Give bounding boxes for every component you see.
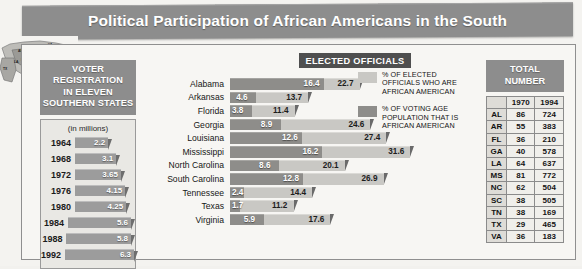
table-col-state [487, 97, 507, 109]
vr-year-label: 1992 [41, 250, 65, 260]
chart-row-label: Mississippi [160, 147, 230, 157]
bar-label-voting-age-population: 13.7 [286, 93, 302, 102]
legend-swatch-dark [358, 106, 377, 117]
table-col-1970: 1970 [506, 97, 535, 109]
vr-bar-container: 5.8 [66, 233, 135, 246]
chart-row-label: Louisiana [160, 133, 230, 143]
table-cell-y1994: 210 [535, 133, 564, 145]
chart-row: Texas1.711.2 [160, 199, 360, 213]
table-head: 1970 1994 [487, 97, 564, 109]
bar-label-elected-officials: 3.8 [232, 106, 243, 115]
voter-registration-rows: 19642.219683.119723.6519764.1519804.2519… [41, 136, 135, 263]
table-body: AL86724AR55383FL36210GA40578LA64637MS817… [487, 109, 564, 243]
table-cell-y1970: 55 [506, 121, 535, 133]
vr-year-label: 1976 [41, 186, 75, 196]
chart-row: Tennessee2.414.4 [160, 186, 360, 200]
bar-label-elected-officials: 4.6 [236, 93, 247, 102]
chart-row: Arkansas4.613.7 [160, 91, 360, 105]
vr-value-label: 4.25 [108, 202, 127, 211]
bar-label-elected-officials: 8.9 [261, 120, 272, 129]
vr-value-label: 2.2 [94, 138, 108, 147]
table-cell-y1994: 504 [535, 182, 564, 194]
vr-row: 19764.15 [41, 184, 135, 199]
table-cell-y1970: 62 [506, 182, 535, 194]
voter-registration-chart: (in millions) 19642.219683.119723.651976… [40, 119, 136, 269]
vr-year-label: 1988 [41, 234, 66, 244]
legend-swatch-light [358, 72, 377, 83]
table-row: GA40578 [487, 145, 564, 157]
chart-row-label: Georgia [160, 120, 230, 130]
table-cell-y1970: 38 [506, 194, 535, 206]
bar-label-voting-age-population: 17.6 [308, 215, 324, 224]
bar-label-elected-officials: 5.9 [244, 215, 255, 224]
table-cell-y1970: 36 [506, 231, 535, 243]
total-number-table: 1970 1994 AL86724AR55383FL36210GA40578LA… [486, 96, 564, 243]
bar-label-elected-officials: 12.8 [283, 174, 299, 183]
chart-row-bars: 12.627.4 [230, 132, 360, 144]
table-cell-state: NC [487, 182, 507, 194]
vr-bar: 2.2 [75, 137, 108, 148]
table-cell-state: FL [487, 133, 507, 145]
table-cell-y1970: 86 [506, 109, 535, 121]
page-title-banner: Political Participation of African Ameri… [22, 2, 573, 39]
chart-row-bars: 16.422.7 [230, 78, 360, 90]
tn-heading-line-2: NUMBER [486, 76, 564, 88]
chart-row-bars: 4.613.7 [230, 92, 360, 104]
vr-value-label: 3.65 [102, 170, 121, 179]
vr-row: 19683.1 [41, 152, 135, 167]
chart-row-label: Tennessee [160, 188, 230, 198]
table-row: SC38505 [487, 194, 564, 206]
table-cell-state: MS [487, 170, 507, 182]
chart-row: Florida3.811.4 [160, 104, 360, 118]
chart-row-label: South Carolina [160, 174, 230, 184]
table-cell-state: SC [487, 194, 507, 206]
bar-label-voting-age-population: 14.4 [290, 188, 306, 197]
table-cell-y1994: 383 [535, 121, 564, 133]
table-row: LA64637 [487, 157, 564, 169]
voter-registration-heading: VOTER REGISTRATION IN ELEVEN SOUTHERN ST… [40, 60, 136, 115]
chart-row: Louisiana12.627.4 [160, 131, 360, 145]
vr-row: 19804.25 [41, 200, 135, 215]
chart-row: North Carolina8.620.1 [160, 159, 360, 173]
vr-bar-container: 2.2 [75, 137, 135, 150]
vr-value-label: 3.1 [102, 154, 116, 163]
table-cell-y1994: 169 [535, 206, 564, 218]
table-cell-state: TN [487, 206, 507, 218]
table-row: FL36210 [487, 133, 564, 145]
bar-label-elected-officials: 12.6 [282, 133, 298, 142]
chart-row: Alabama16.422.7 [160, 77, 360, 91]
vr-year-label: 1972 [41, 170, 75, 180]
vr-heading-line-4: SOUTHERN STATES [40, 98, 136, 109]
table-cell-y1970: 36 [506, 133, 535, 145]
table-cell-state: AR [487, 121, 507, 133]
legend-label: % OF VOTING AGE POPULATION THAT IS AFRIC… [382, 105, 470, 130]
vr-bar-container: 6.3 [65, 249, 138, 262]
chart-row: Virginia5.917.6 [160, 213, 360, 227]
vr-value-label: 5.8 [117, 234, 131, 243]
table-cell-state: AL [487, 109, 507, 121]
vr-bar: 4.15 [75, 185, 125, 196]
chart-row: South Carolina12.826.9 [160, 172, 360, 186]
total-number-panel: TOTAL NUMBER 1970 1994 AL86724AR55383FL3… [486, 60, 564, 243]
vr-heading-line-1: VOTER [40, 64, 136, 75]
voter-registration-panel: VOTER REGISTRATION IN ELEVEN SOUTHERN ST… [40, 60, 136, 248]
chart-row-bars: 16.231.6 [230, 146, 360, 158]
table-row: TX29465 [487, 218, 564, 230]
vr-bar: 3.1 [75, 153, 116, 164]
vr-year-label: 1968 [41, 154, 75, 164]
bar-elected-officials [230, 119, 281, 131]
table-cell-y1970: 29 [506, 218, 535, 230]
chart-row-bars: 5.917.6 [230, 214, 360, 226]
svg-text:TX: TX [3, 67, 8, 71]
table-row: TN38169 [487, 206, 564, 218]
vr-year-label: 1980 [41, 202, 75, 212]
table-row: VA36183 [487, 231, 564, 243]
table-row: NC62504 [487, 182, 564, 194]
bar-label-voting-age-population: 11.2 [272, 201, 287, 210]
chart-legend: % OF ELECTED OFFICIALS WHO ARE AFRICAN A… [358, 71, 470, 139]
vr-row: 19723.65 [41, 168, 135, 183]
table-cell-y1994: 772 [535, 170, 564, 182]
bar-label-elected-officials: 16.4 [304, 79, 320, 88]
legend-item: % OF VOTING AGE POPULATION THAT IS AFRIC… [358, 105, 470, 130]
